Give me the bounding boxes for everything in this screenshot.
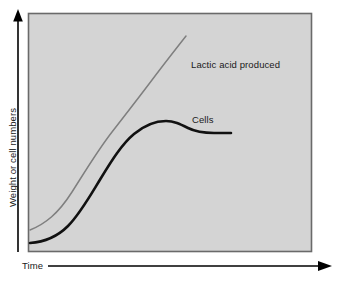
series-label-lactic-acid: Lactic acid produced: [191, 59, 280, 70]
y-axis-label: Weight or cell numbers: [7, 98, 18, 218]
plot-panel: [29, 14, 312, 252]
growth-curve-figure: Weight or cell numbers Time Lactic acid …: [0, 0, 339, 281]
series-label-cells: Cells: [192, 114, 214, 125]
right-arrow-icon: [318, 261, 332, 271]
up-arrow-icon: [13, 9, 23, 22]
chart-canvas: [0, 0, 339, 281]
x-axis-label: Time: [22, 260, 43, 271]
x-axis: [48, 261, 332, 271]
